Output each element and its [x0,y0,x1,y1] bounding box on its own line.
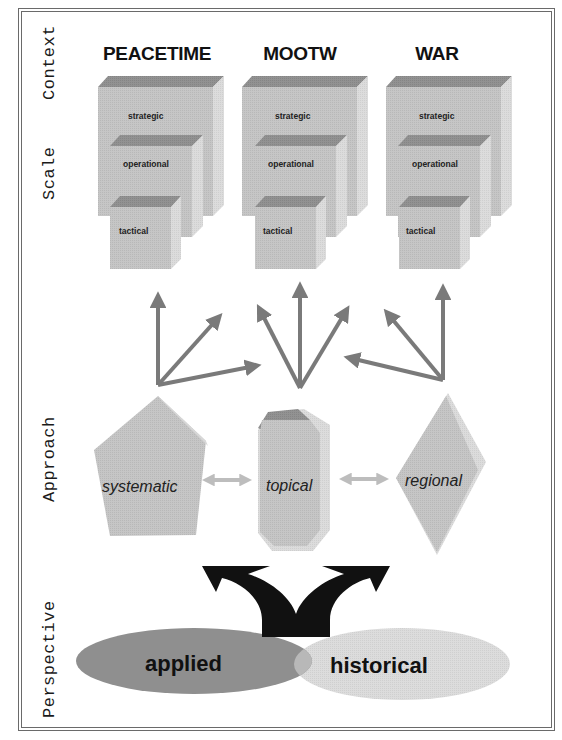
cube-stack-war: strategic operational tactical [386,76,512,269]
cube-label: strategic [275,111,311,121]
cube-label: operational [268,159,314,169]
approach-label: topical [266,477,313,494]
cube-tactical: tactical [255,196,326,269]
cube-stack-peacetime: strategic operational tactical [98,76,224,269]
cube-tactical: tactical [399,196,470,269]
approach-topical: topical [258,409,330,551]
diagram-canvas: strategic operational tactical strategic [0,0,562,740]
approach-regional: regional [396,393,486,555]
arrow-up-left-icon [260,310,300,388]
perspective-label-historical: historical [330,653,428,678]
approach-label: regional [405,472,462,489]
cube-label: operational [123,159,169,169]
cube-label: operational [412,159,458,169]
cube-label: tactical [119,226,148,236]
cube-label: tactical [406,226,435,236]
approach-label: systematic [102,478,178,495]
arrow-group-left [158,298,255,385]
cube-label: strategic [128,111,164,121]
cube-label: tactical [263,226,292,236]
arrow-group-center [260,288,346,388]
arrow-up-right-icon [300,311,346,388]
perspective-label-applied: applied [145,651,222,676]
split-arrow-icon [202,566,390,637]
cube-label: strategic [419,111,455,121]
cube-tactical: tactical [110,196,181,269]
arrow-group-right [350,290,443,380]
cube-stack-mootw: strategic operational tactical [242,76,368,269]
approach-systematic: systematic [94,396,208,536]
